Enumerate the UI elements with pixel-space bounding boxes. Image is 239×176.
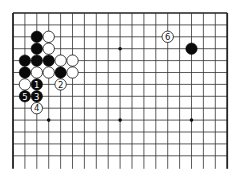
star-point: [190, 118, 194, 122]
black-stone: [43, 55, 54, 66]
go-board: 123456: [0, 0, 239, 176]
stone-circle: [31, 55, 42, 66]
black-stone-3: 3: [31, 91, 42, 102]
stone-circle: [19, 55, 30, 66]
stone-circle: [43, 31, 54, 42]
black-stone: [186, 43, 197, 54]
white-stone: [43, 67, 54, 78]
white-stone-6: 6: [162, 31, 173, 42]
white-stone-2: 2: [55, 79, 66, 90]
star-point: [118, 118, 122, 122]
stone-circle: [186, 43, 197, 54]
white-stone: [43, 43, 54, 54]
move-number: 4: [34, 103, 39, 113]
white-stone: [19, 79, 30, 90]
black-stone: [31, 31, 42, 42]
black-stone-1: 1: [31, 79, 42, 90]
stone-circle: [43, 43, 54, 54]
move-number: 5: [22, 92, 27, 102]
white-stone-4: 4: [31, 103, 42, 114]
stone-circle: [43, 55, 54, 66]
star-point: [47, 118, 51, 122]
stone-circle: [31, 31, 42, 42]
white-stone: [55, 55, 66, 66]
black-stone: [31, 55, 42, 66]
white-stone: [43, 31, 54, 42]
white-stone: [67, 55, 78, 66]
stone-circle: [19, 79, 30, 90]
stone-circle: [43, 67, 54, 78]
black-stone-5: 5: [19, 91, 30, 102]
black-stone: [19, 55, 30, 66]
stone-circle: [55, 67, 66, 78]
stone-circle: [67, 67, 78, 78]
move-number: 6: [165, 32, 170, 42]
white-stone: [31, 67, 42, 78]
stone-circle: [55, 55, 66, 66]
white-stone: [67, 67, 78, 78]
stone-circle: [31, 67, 42, 78]
move-number: 3: [34, 92, 39, 102]
stone-circle: [31, 43, 42, 54]
black-stone: [19, 67, 30, 78]
black-stone: [31, 43, 42, 54]
star-point: [118, 47, 122, 51]
stone-circle: [67, 55, 78, 66]
move-number: 1: [34, 80, 39, 90]
black-stone: [55, 67, 66, 78]
move-number: 2: [58, 80, 63, 90]
stone-circle: [19, 67, 30, 78]
